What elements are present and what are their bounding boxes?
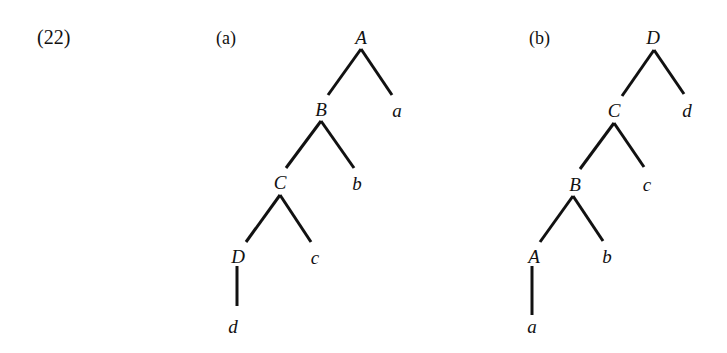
tree-a-node-B: B bbox=[315, 100, 327, 119]
tree-a-edge-A-a bbox=[361, 49, 392, 95]
tree-b-edge-C-B bbox=[580, 123, 614, 169]
tree-b-node-leaf-a: a bbox=[527, 317, 537, 336]
tree-b-edge-D-C bbox=[622, 50, 654, 96]
tree-edges bbox=[0, 0, 727, 353]
tree-a-node-leaf-c: c bbox=[311, 248, 319, 267]
tree-b-node-leaf-c: c bbox=[643, 175, 651, 194]
tree-a-edge-A-B bbox=[328, 49, 361, 95]
tree-a-edge-B-C bbox=[286, 121, 321, 168]
tree-b-edge-B-b bbox=[573, 196, 603, 241]
tree-a-node-leaf-d: d bbox=[228, 317, 238, 336]
tree-a-node-leaf-b: b bbox=[352, 174, 362, 193]
tree-a-node-D: D bbox=[231, 247, 245, 266]
tree-a-edge-B-b bbox=[321, 121, 354, 168]
tree-b-node-leaf-d: d bbox=[682, 101, 692, 120]
tree-b-node-C: C bbox=[608, 101, 621, 120]
tree-b-node-B: B bbox=[569, 175, 581, 194]
tree-a-node-A: A bbox=[355, 28, 367, 47]
tree-a-edge-C-c bbox=[280, 195, 311, 242]
tree-b-edge-B-A bbox=[540, 196, 573, 242]
tree-a-node-leaf-a: a bbox=[392, 101, 402, 120]
tree-b-node-D: D bbox=[646, 28, 660, 47]
tree-a-edge-C-D bbox=[246, 195, 280, 242]
tree-b-edge-D-d bbox=[654, 50, 684, 94]
tree-a-node-C: C bbox=[274, 173, 287, 192]
tree-b-edge-C-c bbox=[614, 123, 644, 167]
tree-b-node-leaf-b: b bbox=[602, 247, 612, 266]
tree-b-node-A: A bbox=[528, 247, 540, 266]
